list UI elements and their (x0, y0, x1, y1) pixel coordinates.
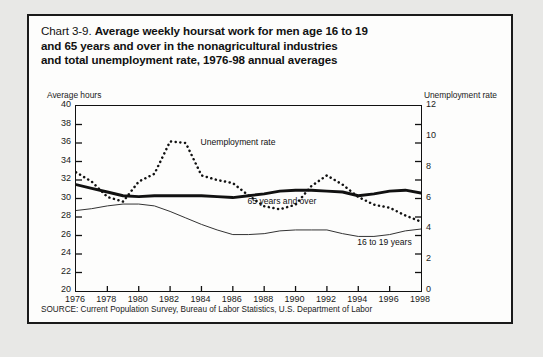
chart-number: Chart 3-9. (41, 24, 95, 37)
y-tick-right-0: 0 (426, 284, 448, 294)
y-tick-left-20: 20 (49, 284, 71, 294)
chart-title: Chart 3-9. Average weekly hoursat work f… (41, 24, 496, 68)
series-1 (76, 204, 421, 236)
chart-title-line1: Average weekly hoursat work for men age … (95, 24, 368, 37)
chart-page: Chart 3-9. Average weekly hoursat work f… (0, 0, 543, 357)
y-tick-left-22: 22 (49, 266, 71, 276)
y-tick-left-24: 24 (49, 247, 71, 257)
y-tick-left-26: 26 (49, 229, 71, 239)
chart-card: Chart 3-9. Average weekly hoursat work f… (27, 14, 513, 324)
annotation-16-to-19-years: 16 to 19 years (357, 237, 411, 247)
y-tick-right-2: 2 (426, 253, 448, 263)
y-tick-right-8: 8 (426, 161, 448, 171)
y-tick-left-40: 40 (49, 99, 71, 109)
y-tick-left-28: 28 (49, 210, 71, 220)
series-2 (76, 141, 421, 221)
annotation-unemployment-rate: Unemployment rate (200, 137, 275, 147)
y-tick-left-38: 38 (49, 118, 71, 128)
y-tick-right-6: 6 (426, 192, 448, 202)
y-tick-left-36: 36 (49, 136, 71, 146)
y-tick-left-34: 34 (49, 155, 71, 165)
source-note: SOURCE: Current Population Survey, Burea… (41, 305, 372, 314)
y-tick-right-10: 10 (426, 130, 448, 140)
x-tick-1998: 1998 (400, 294, 440, 304)
y-tick-left-32: 32 (49, 173, 71, 183)
y-tick-right-4: 4 (426, 222, 448, 232)
chart-title-line3: and total unemployment rate, 1976-98 ann… (41, 53, 337, 66)
y-tick-left-30: 30 (49, 192, 71, 202)
chart-title-line2: and 65 years and over in the nonagricult… (41, 39, 338, 52)
annotation-65-years-and-over: 65 years and over (248, 196, 317, 206)
y-tick-right-12: 12 (426, 99, 448, 109)
